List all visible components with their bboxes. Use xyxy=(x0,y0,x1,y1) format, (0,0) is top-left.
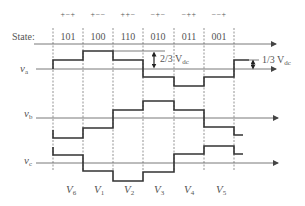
va-label: va xyxy=(20,62,29,76)
sign-label-5: −++ xyxy=(181,10,196,19)
sign-label-3: ++− xyxy=(120,10,135,19)
state-code-1: 101 xyxy=(61,31,76,42)
sign-label-4: −+− xyxy=(150,10,165,19)
vc-label: vc xyxy=(24,154,32,168)
vector-label-v3: V3 xyxy=(154,183,165,197)
state-code-row: 101 100 110 010 011 001 xyxy=(61,31,227,42)
state-code-5: 011 xyxy=(182,31,197,42)
vector-label-v4: V4 xyxy=(184,183,195,197)
va-waveform xyxy=(53,51,249,86)
sign-label-6: −−+ xyxy=(211,10,226,19)
vector-label-v2: V2 xyxy=(124,183,135,197)
vb-waveform xyxy=(53,101,243,138)
vb-label: vb xyxy=(24,107,33,121)
state-label: State: xyxy=(12,31,35,42)
switch-sign-row: +−+ +−− ++− −+− −++ −−+ xyxy=(60,10,226,19)
state-code-2: 100 xyxy=(91,31,106,42)
one-third-vdc-label: 1/3 Vdc xyxy=(262,54,291,67)
sign-label-2: +−− xyxy=(90,10,105,19)
vector-label-v1: V1 xyxy=(94,183,105,197)
state-code-3: 110 xyxy=(121,31,136,42)
state-code-6: 001 xyxy=(212,31,227,42)
vector-label-v5: V5 xyxy=(216,183,227,197)
sign-label-1: +−+ xyxy=(60,10,75,19)
interval-boundaries xyxy=(53,28,234,170)
two-thirds-vdc-label: 2/3 Vdc xyxy=(160,53,189,66)
state-code-4: 010 xyxy=(151,31,166,42)
six-step-voltage-diagram: +−+ +−− ++− −+− −++ −−+ State: 101 100 1… xyxy=(0,0,305,206)
vc-waveform xyxy=(53,146,243,181)
vector-label-v6: V6 xyxy=(66,183,77,197)
vector-label-row: V6 V1 V2 V3 V4 V5 xyxy=(66,183,227,197)
